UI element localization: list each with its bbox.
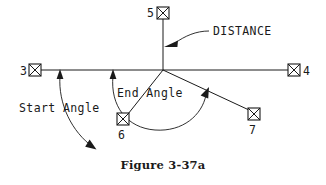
distance-leader-arrowhead bbox=[164, 41, 178, 48]
figure-container: 3 4 5 6 7 DISTANCE Start Angle End Angle… bbox=[0, 0, 326, 185]
point-marker-5 bbox=[157, 7, 169, 19]
end-angle-arrow-right bbox=[201, 87, 209, 98]
point-label-4: 4 bbox=[303, 64, 310, 78]
start-angle-label: Start Angle bbox=[19, 101, 100, 115]
point-marker-7 bbox=[248, 108, 260, 120]
end-angle-label: End Angle bbox=[117, 86, 183, 100]
distance-label: DISTANCE bbox=[213, 24, 272, 38]
point-marker-4 bbox=[288, 64, 300, 76]
point-label-5: 5 bbox=[147, 6, 154, 20]
point-label-3: 3 bbox=[20, 64, 27, 78]
point-label-7: 7 bbox=[249, 123, 256, 137]
point-label-6: 6 bbox=[118, 128, 125, 142]
figure-caption: Figure 3-37a bbox=[0, 158, 326, 172]
start-angle-arrow-bottom bbox=[85, 140, 96, 150]
distance-leader-line bbox=[175, 31, 209, 43]
point-marker-3 bbox=[29, 64, 41, 76]
distance-leader-group bbox=[164, 31, 209, 47]
point-marker-6 bbox=[117, 113, 129, 125]
